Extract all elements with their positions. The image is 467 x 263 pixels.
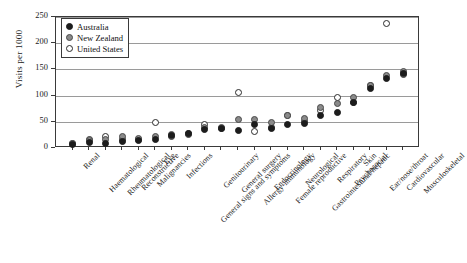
y-tick-label-50: 50 — [39, 117, 48, 125]
x-tick-mark — [154, 147, 155, 150]
x-tick-mark — [171, 147, 172, 150]
data-point — [86, 139, 93, 146]
data-point — [251, 121, 258, 128]
y-tick-label-150: 150 — [35, 64, 48, 72]
gridline-150 — [56, 69, 418, 70]
y-tick-mark-0 — [51, 147, 55, 148]
legend-label: New Zealand — [77, 33, 123, 43]
y-tick-label-250: 250 — [35, 12, 48, 20]
data-point — [268, 125, 275, 132]
data-point — [367, 85, 374, 92]
data-point — [334, 109, 341, 116]
data-point — [383, 20, 390, 27]
data-point — [301, 120, 308, 127]
open-circle-icon — [66, 45, 73, 52]
y-tick-label-0: 0 — [44, 143, 48, 151]
x-tick-label: Renal — [81, 151, 101, 171]
data-point — [218, 125, 225, 132]
data-point — [350, 99, 357, 106]
data-point — [235, 116, 242, 123]
data-point — [334, 100, 341, 107]
x-tick-mark — [303, 147, 304, 150]
data-point — [201, 126, 208, 133]
y-tick-label-100: 100 — [35, 91, 48, 99]
x-tick-mark — [270, 147, 271, 150]
data-point — [102, 140, 109, 147]
legend-label: United States — [77, 44, 123, 54]
x-tick-mark — [320, 147, 321, 150]
x-tick-label-text: Renal — [81, 151, 101, 171]
y-tick-label-200: 200 — [35, 38, 48, 46]
x-tick-mark — [237, 147, 238, 150]
data-point — [69, 141, 76, 148]
x-tick-mark — [386, 147, 387, 150]
x-tick-mark — [287, 147, 288, 150]
legend-item: Australia — [66, 21, 123, 32]
x-tick-mark — [402, 147, 403, 150]
legend-label: Australia — [77, 22, 109, 32]
legend-item: New Zealand — [66, 32, 123, 43]
data-point — [152, 136, 159, 143]
data-point — [383, 75, 390, 82]
x-tick-mark — [353, 147, 354, 150]
x-tick-mark — [138, 147, 139, 150]
x-tick-mark — [88, 147, 89, 150]
data-point — [317, 112, 324, 119]
x-tick-mark — [121, 147, 122, 150]
x-tick-mark — [204, 147, 205, 150]
y-axis: 250200150100500 — [0, 0, 55, 163]
data-point — [152, 119, 159, 126]
filled-circle-icon — [66, 23, 73, 30]
x-tick-mark — [187, 147, 188, 150]
x-tick-mark — [369, 147, 370, 150]
data-point — [284, 112, 291, 119]
chart-legend: AustraliaNew ZealandUnited States — [61, 18, 129, 58]
data-point — [119, 138, 126, 145]
data-point — [284, 121, 291, 128]
data-point — [251, 128, 258, 135]
data-point — [235, 127, 242, 134]
x-tick-mark — [254, 147, 255, 150]
legend-item: United States — [66, 43, 123, 54]
gray-circle-icon — [66, 34, 73, 41]
x-tick-mark — [105, 147, 106, 150]
x-tick-mark — [336, 147, 337, 150]
data-point — [400, 70, 407, 77]
x-tick-mark — [220, 147, 221, 150]
data-point — [135, 137, 142, 144]
